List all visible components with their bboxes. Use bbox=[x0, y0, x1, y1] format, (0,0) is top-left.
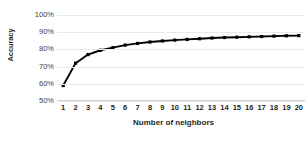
data-point-marker bbox=[86, 53, 89, 56]
data-point-marker bbox=[136, 42, 139, 45]
data-point-marker bbox=[173, 39, 176, 42]
y-tick-label: 50% bbox=[22, 97, 54, 105]
y-tick-label: 100% bbox=[22, 11, 54, 19]
gridline bbox=[57, 15, 305, 16]
y-axis-title: Accuracy bbox=[5, 13, 17, 77]
data-point-marker bbox=[124, 44, 127, 47]
y-tick-label: 60% bbox=[22, 80, 54, 88]
gridline bbox=[57, 49, 305, 50]
data-point-marker bbox=[210, 36, 213, 39]
data-point-marker bbox=[260, 35, 263, 38]
gridline bbox=[57, 84, 305, 85]
gridline bbox=[57, 32, 305, 33]
gridline bbox=[57, 101, 305, 102]
series-line-path bbox=[63, 36, 299, 86]
data-point-marker bbox=[198, 37, 201, 40]
data-point-marker bbox=[272, 35, 275, 38]
data-point-marker bbox=[297, 34, 300, 37]
y-tick-label: 80% bbox=[22, 45, 54, 53]
plot-area bbox=[57, 15, 305, 101]
data-point-marker bbox=[74, 62, 77, 65]
data-point-marker bbox=[285, 34, 288, 37]
accuracy-line-series bbox=[57, 15, 305, 101]
data-point-marker bbox=[148, 40, 151, 43]
data-point-marker bbox=[235, 36, 238, 39]
accuracy-vs-neighbors-chart: Accuracy 50%60%70%80%90%100% 12345678910… bbox=[0, 0, 307, 143]
data-point-marker bbox=[161, 39, 164, 42]
x-axis-tick-labels: 1234567891011121314151617181920 bbox=[57, 103, 305, 115]
data-point-marker bbox=[223, 36, 226, 39]
x-axis-title: Number of neighbors bbox=[0, 118, 307, 127]
y-tick-label: 70% bbox=[22, 63, 54, 71]
y-tick-label: 90% bbox=[22, 28, 54, 36]
gridline bbox=[57, 67, 305, 68]
x-axis-line bbox=[57, 100, 305, 101]
x-tick-label: 20 bbox=[290, 103, 307, 113]
series-markers bbox=[62, 34, 301, 87]
data-point-marker bbox=[248, 35, 251, 38]
data-point-marker bbox=[186, 38, 189, 41]
